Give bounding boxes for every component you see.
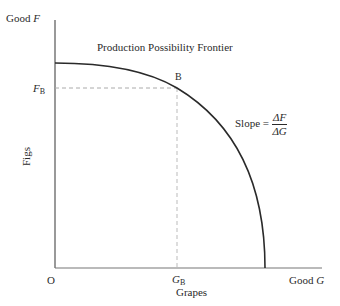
origin-label: O [47, 275, 55, 286]
slope-label: Slope =ΔFΔG [235, 111, 287, 138]
chart-title: Production Possibility Frontier [97, 42, 233, 53]
ppf-curve [55, 63, 265, 268]
point-b-label: B [175, 72, 182, 82]
y-axis-name: Figs [21, 147, 32, 166]
x-axis-right-label: Good G [289, 275, 324, 286]
y-axis-top-label: Good F [6, 13, 40, 24]
x-axis-name: Grapes [176, 287, 207, 298]
f-b-label: FB [33, 83, 45, 94]
g-b-label: GB [172, 274, 185, 285]
